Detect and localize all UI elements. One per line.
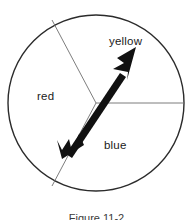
spinner-diagram	[0, 0, 193, 200]
sector-label-blue: blue	[104, 139, 127, 151]
spinner-figure: red yellow blue Figure 11-2	[0, 0, 193, 220]
figure-caption: Figure 11-2	[0, 212, 193, 220]
sector-label-yellow: yellow	[109, 35, 142, 47]
sector-label-red: red	[37, 90, 54, 102]
